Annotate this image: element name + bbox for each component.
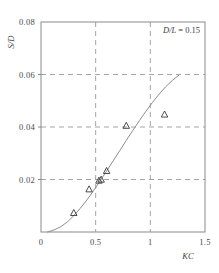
- chart-canvas: 00.511.5 0.020.040.060.08 KC S/D D/L=0.1…: [0, 0, 219, 273]
- x-axis-title: KC: [181, 251, 194, 261]
- chart-figure: 00.511.5 0.020.040.060.08 KC S/D D/L=0.1…: [0, 0, 219, 273]
- parameter-value: 0.15: [185, 25, 200, 35]
- parameter-operator: =: [178, 25, 183, 35]
- x-tick-label: 0: [39, 237, 44, 247]
- parameter-symbol: D/L: [162, 25, 177, 35]
- parameter-annotation: D/L=0.15: [162, 25, 200, 35]
- y-tick-label: 0.02: [19, 175, 35, 185]
- y-axis-title: S/D: [6, 35, 16, 49]
- x-tick-label: 0.5: [90, 237, 102, 247]
- y-tick-label: 0.06: [19, 70, 35, 80]
- y-tick-label: 0.08: [19, 17, 35, 27]
- x-tick-label: 1.5: [199, 237, 211, 247]
- y-tick-label: 0.04: [19, 122, 36, 132]
- x-tick-label: 1: [148, 237, 153, 247]
